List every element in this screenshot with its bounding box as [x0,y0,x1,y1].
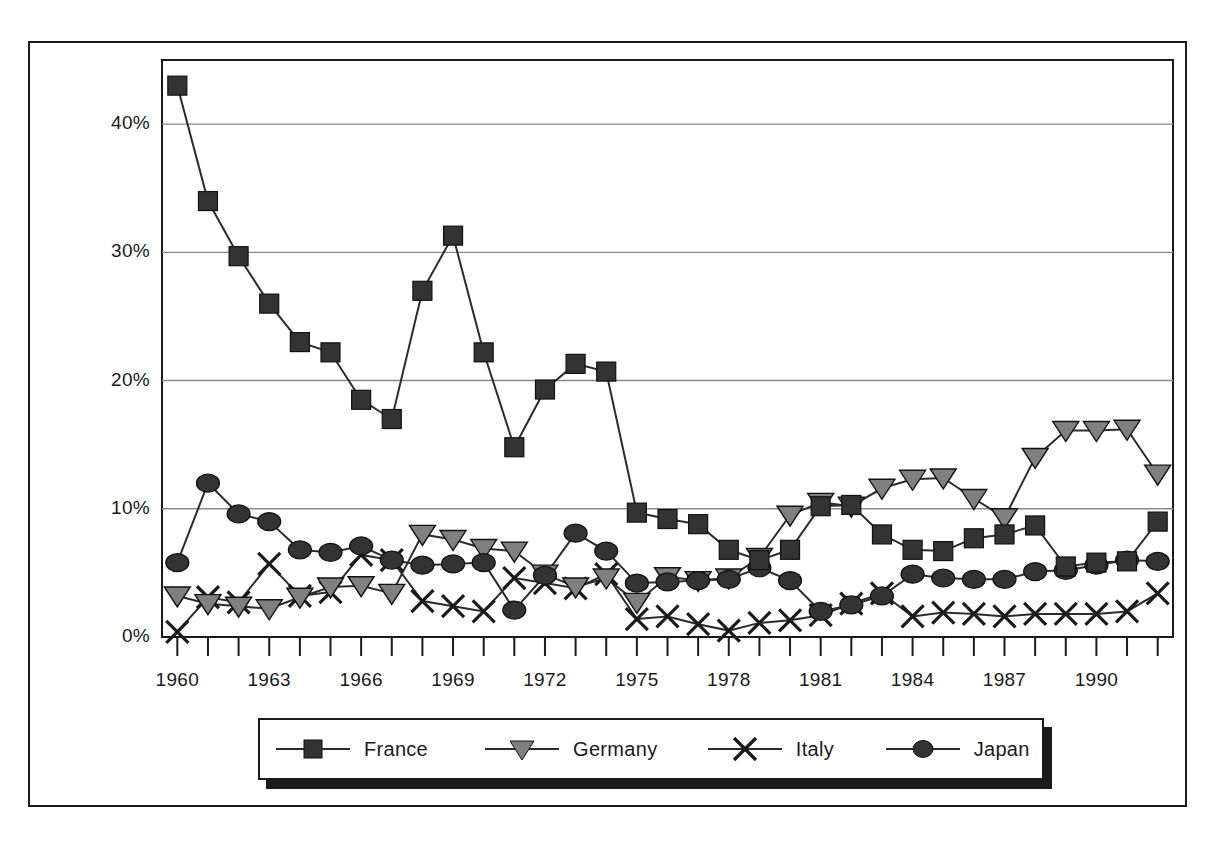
data-point-france [719,540,738,559]
data-point-france [535,380,554,399]
data-point-france [566,354,585,373]
data-point-france [934,542,953,561]
x-axis-tick-label: 1981 [776,669,866,691]
y-axis-tick-label: 0% [122,625,150,647]
data-point-france [658,510,677,529]
data-point-france [903,540,922,559]
data-point-france [689,515,708,534]
data-point-france [872,525,891,544]
data-point-japan [1024,563,1047,581]
chart-legend: FranceGermanyItalyJapan [258,718,1044,780]
data-point-japan [779,572,802,590]
legend-label: Italy [796,738,834,761]
x-axis-tick-label: 1969 [408,669,498,691]
data-point-france [382,410,401,429]
data-point-japan [533,566,556,584]
data-point-france [1087,553,1106,572]
data-point-japan [411,556,434,574]
data-point-japan [809,602,832,620]
data-point-japan [472,554,495,572]
data-point-france [1056,557,1075,576]
data-point-france [290,333,309,352]
data-point-japan [196,474,219,492]
x-marker-glyph [708,736,782,762]
circle-marker [886,736,960,762]
x-marker [708,736,782,762]
data-point-france [1026,516,1045,535]
x-axis-tick-label: 1975 [592,669,682,691]
data-point-france [413,281,432,300]
data-point-france [1148,512,1167,531]
data-point-japan [442,555,465,573]
data-point-france [597,362,616,381]
data-point-japan [840,596,863,614]
y-axis-tick-label: 30% [111,240,150,262]
legend-item-japan[interactable]: Japan [886,736,1042,762]
data-point-japan [870,587,893,605]
data-point-japan [717,570,740,588]
data-point-japan [564,524,587,542]
data-point-france [198,192,217,211]
legend-label: Germany [573,738,657,761]
data-point-france [995,525,1014,544]
data-point-japan [901,565,924,583]
data-point-japan [166,554,189,572]
x-axis-tick-label: 1963 [224,669,314,691]
data-point-japan [227,505,250,523]
data-point-japan [687,572,710,590]
data-point-japan [258,513,281,531]
data-point-japan [595,542,618,560]
data-point-france [260,294,279,313]
y-axis-tick-label: 20% [111,369,150,391]
data-point-france [229,247,248,266]
data-point-japan [380,551,403,569]
legend-label: France [364,738,428,761]
legend-item-france[interactable]: France [276,736,485,762]
data-point-france [474,343,493,362]
data-point-japan [656,573,679,591]
x-axis-tick-label: 1972 [500,669,590,691]
data-point-japan [962,570,985,588]
data-point-france [505,438,524,457]
y-axis-tick-label: 10% [111,497,150,519]
data-point-france [964,529,983,548]
legend-label: Japan [974,738,1030,761]
data-point-france [1118,552,1137,571]
data-point-france [811,497,830,516]
data-point-france [627,503,646,522]
data-point-japan [350,537,373,555]
data-point-japan [625,574,648,592]
circle-marker-glyph [886,736,960,762]
square-marker [276,736,350,762]
data-point-japan [1146,552,1169,570]
x-axis-tick-label: 1966 [316,669,406,691]
data-point-france [781,540,800,559]
data-point-japan [932,569,955,587]
legend-item-germany[interactable]: Germany [485,736,708,762]
data-point-france [444,226,463,245]
data-point-japan [503,601,526,619]
data-point-japan [288,541,311,559]
data-point-france [352,390,371,409]
triangle-down-marker [485,736,559,762]
x-axis-tick-label: 1960 [132,669,222,691]
x-axis-tick-label: 1978 [684,669,774,691]
x-axis-tick-label: 1987 [960,669,1050,691]
data-point-japan [993,570,1016,588]
data-point-france [168,76,187,95]
x-axis-tick-label: 1984 [868,669,958,691]
x-axis-tick-label: 1990 [1051,669,1141,691]
legend-items-container: FranceGermanyItalyJapan [260,720,1042,778]
data-point-france [842,495,861,514]
legend-item-italy[interactable]: Italy [708,736,886,762]
data-point-france [321,343,340,362]
triangle-down-marker-glyph [485,736,559,762]
data-point-japan [319,543,342,561]
data-point-france [750,551,769,570]
y-axis-tick-label: 40% [111,112,150,134]
square-marker-glyph [276,736,350,762]
